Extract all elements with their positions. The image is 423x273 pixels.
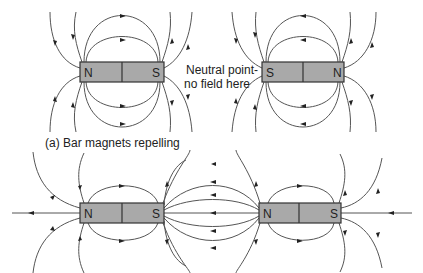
neutral-point-label: Neutral point-: [186, 63, 258, 77]
pole-label: S: [152, 207, 160, 221]
neutral-point-label: no field here: [184, 77, 250, 91]
pole-label: N: [263, 207, 272, 221]
magnetic-field-diagram: N S S N Neutral point- no field here (a)…: [0, 0, 423, 273]
magnet-bottom-left: N S: [80, 203, 164, 223]
attracting-field-lines: [12, 150, 412, 273]
caption-repelling: (a) Bar magnets repelling: [45, 136, 180, 150]
magnet-top-left: N S: [80, 62, 164, 82]
pole-label: N: [84, 66, 93, 80]
magnet-bottom-right: N S: [259, 203, 341, 223]
pole-label: N: [333, 66, 342, 80]
magnet-top-right: S N: [262, 62, 344, 82]
pole-label: S: [330, 207, 338, 221]
pole-label: N: [84, 207, 93, 221]
pole-label: S: [266, 66, 274, 80]
pole-label: S: [152, 66, 160, 80]
